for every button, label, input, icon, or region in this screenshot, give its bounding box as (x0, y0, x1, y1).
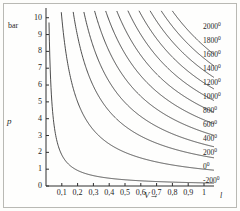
isotherm-temperature-label: -2000 (203, 176, 220, 185)
isotherm-temperature-label: 18000 (203, 36, 221, 45)
isotherm-temperature-label: 10000 (203, 92, 221, 101)
isotherm-curve (49, 23, 213, 183)
x-axis-unit: l (220, 191, 222, 200)
isotherm-temperature-label: 4000 (203, 134, 217, 143)
isotherm-curve (117, 11, 214, 112)
axes-lines (46, 8, 214, 186)
isotherm-curve (106, 11, 214, 123)
isotherm-curves (49, 11, 213, 183)
temperature-value: 1800 (203, 36, 218, 45)
degree-icon: 0 (214, 119, 217, 125)
degree-icon: 0 (218, 63, 221, 69)
temperature-value: 400 (203, 134, 214, 143)
temperature-value: 1600 (203, 50, 218, 59)
temperature-value: 200 (203, 148, 214, 157)
y-tick-label: 2 (28, 147, 42, 156)
y-tick-label: 10 (28, 13, 42, 22)
isotherm-curve (173, 11, 214, 54)
isotherm-temperature-label: 14000 (203, 64, 221, 73)
temperature-value: -200 (203, 176, 217, 185)
isotherm-curve (61, 13, 213, 171)
y-tick-label: 8 (28, 46, 42, 55)
x-tick-label: 1 (195, 188, 213, 197)
degree-icon: 0 (207, 161, 210, 167)
y-tick-label: 7 (28, 63, 42, 72)
y-tick-label: 9 (28, 30, 42, 39)
degree-icon: 0 (218, 77, 221, 83)
degree-icon: 0 (214, 105, 217, 111)
temperature-value: 1200 (203, 78, 218, 87)
degree-icon: 0 (218, 35, 221, 41)
isotherm-temperature-label: 6000 (203, 120, 217, 129)
isotherm-curve (84, 12, 214, 146)
isotherm-temperature-label: 00 (203, 162, 210, 171)
isotherm-temperature-label: 2000 (203, 148, 217, 157)
degree-icon: 0 (214, 133, 217, 139)
pv-isotherm-figure: bar l p V→ 012345678910 0,10,20,30,40,50… (0, 0, 240, 211)
isotherm-temperature-label: 12000 (203, 78, 221, 87)
degree-icon: 0 (218, 21, 221, 27)
y-tick-label: 1 (28, 164, 42, 173)
y-tick-label: 6 (28, 80, 42, 89)
y-tick-label: 0 (28, 181, 42, 190)
tick-marks (46, 18, 204, 186)
isotherm-temperature-label: 20000 (203, 22, 221, 31)
degree-icon: 0 (214, 147, 217, 153)
isotherm-temperature-label: 16000 (203, 50, 221, 59)
temperature-value: 800 (203, 106, 214, 115)
y-tick-label: 3 (28, 131, 42, 140)
temperature-value: 1400 (203, 64, 218, 73)
degree-icon: 0 (217, 175, 220, 181)
y-tick-label: 4 (28, 114, 42, 123)
isotherm-temperature-label: 8000 (203, 106, 217, 115)
isotherm-curve (73, 12, 213, 157)
temperature-value: 600 (203, 120, 214, 129)
temperature-value: 2000 (203, 22, 218, 31)
y-axis-label: p (7, 116, 12, 126)
degree-icon: 0 (218, 49, 221, 55)
y-axis-unit: bar (8, 21, 18, 30)
temperature-value: 1000 (203, 92, 218, 101)
y-tick-label: 5 (28, 97, 42, 106)
degree-icon: 0 (218, 91, 221, 97)
